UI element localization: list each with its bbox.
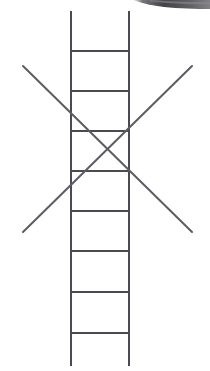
figure-canvas [0, 0, 210, 371]
ladder-drawing [0, 0, 210, 371]
drawing-background [0, 0, 210, 371]
